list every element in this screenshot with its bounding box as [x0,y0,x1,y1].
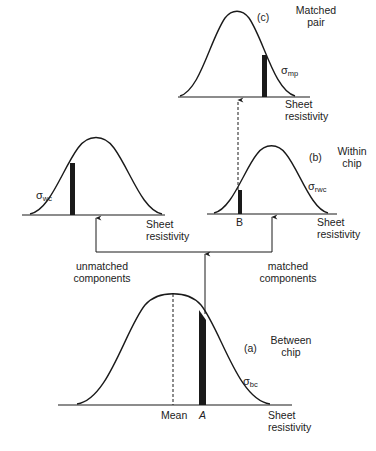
sigma-symbol: σ [243,375,250,387]
sigma-label-mp: σmp [281,64,298,80]
sigma-symbol: σ [308,180,315,192]
panel-title-b: Within chip [330,145,374,169]
panel-title-c: Matched pair [290,4,342,28]
axis-label-wc-line1: Sheet [146,218,189,230]
shaded-bar-a [199,310,206,405]
label-unmatched-line1: unmatched [62,260,142,272]
sigma-subscript: wc [43,194,52,203]
panel-title-a-line2: chip [264,346,318,358]
axis-label-b: Sheet resistivity [317,216,360,240]
sigma-subscript: bc [250,380,258,389]
panel-tag-a: (a) [244,342,257,354]
axis-label-c-line2: resistivity [285,110,328,122]
label-matched-line1: matched [248,260,328,272]
label-matched-line2: components [248,272,328,284]
axis-label-a-line1: Sheet [268,409,311,421]
panel-title-b-line1: Within [330,145,374,157]
panel-title-c-line1: Matched [290,4,342,16]
sigma-subscript: rwc [315,185,327,194]
shaded-bar-b [238,190,242,214]
shaded-bar-wc [70,163,75,215]
axis-label-c: Sheet resistivity [285,98,328,122]
panel-title-a: Between chip [264,334,318,358]
marker-a: A [199,409,206,421]
axis-label-a: Sheet resistivity [268,409,311,433]
label-unmatched-components: unmatched components [62,260,142,284]
panel-title-a-line1: Between [264,334,318,346]
panel-tag-b: (b) [309,151,322,163]
axis-label-b-line2: resistivity [317,228,360,240]
sigma-symbol: σ [281,64,288,76]
sigma-subscript: mp [288,69,298,78]
sigma-label-wc: σwc [36,189,52,205]
shaded-bar-c [262,55,267,97]
label-matched-components: matched components [248,260,328,284]
sigma-label-bc: σbc [243,375,258,391]
label-unmatched-line2: components [62,272,142,284]
sigma-symbol: σ [36,189,43,201]
marker-b: B [236,216,243,228]
panel-title-c-line2: pair [290,16,342,28]
panel-title-b-line2: chip [330,157,374,169]
sigma-label-rwc: σrwc [308,180,326,196]
axis-label-wc: Sheet resistivity [146,218,189,242]
bell-curve-c [180,11,295,96]
axis-label-b-line1: Sheet [317,216,360,228]
axis-label-a-line2: resistivity [268,421,311,433]
axis-label-wc-line2: resistivity [146,230,189,242]
mean-label: Mean [161,409,187,421]
panel-tag-c: (c) [257,11,269,23]
axis-label-c-line1: Sheet [285,98,328,110]
